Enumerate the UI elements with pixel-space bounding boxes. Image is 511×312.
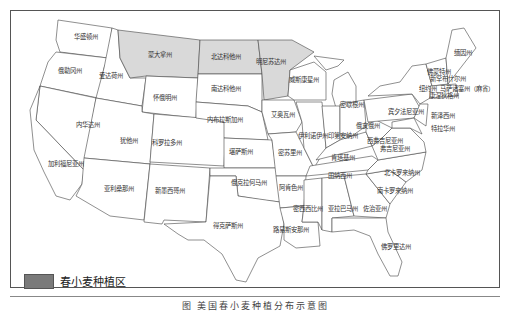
- caption-divider: [10, 296, 500, 297]
- label-colorado: 科罗拉多州: [152, 138, 182, 147]
- label-south-carolina: 南卡罗来纳州: [377, 186, 413, 195]
- map-legend: 春小麦种植区: [24, 273, 126, 289]
- label-tennessee: 田纳西州: [328, 171, 352, 180]
- label-new-mexico: 新墨西哥州: [155, 186, 185, 195]
- label-north-dakota: 北达科他州: [211, 52, 241, 61]
- label-west-virginia: 西弗吉尼亚州: [367, 136, 403, 145]
- figure-caption: 图 美国春小麦种植分布示意图: [0, 299, 511, 312]
- label-louisiana: 路易斯安那州: [273, 225, 309, 234]
- label-california: 加利福尼亚州: [48, 159, 84, 168]
- label-oklahoma: 俄克拉何马州: [231, 178, 267, 187]
- label-virginia: 弗吉尼亚州: [380, 144, 410, 153]
- label-maine: 缅因州: [454, 48, 472, 57]
- label-idaho: 爱达荷州: [99, 71, 123, 80]
- label-iowa: 艾奥瓦州: [271, 110, 295, 119]
- label-north-carolina: 北卡罗来纳州: [384, 168, 420, 177]
- label-south-dakota: 南达科他州: [211, 84, 241, 93]
- label-kansas: 堪萨斯州: [229, 147, 253, 156]
- label-georgia: 佐治亚州: [363, 204, 387, 213]
- label-alabama: 亚拉巴马州: [328, 204, 358, 213]
- label-michigan: 密歇根州: [340, 100, 364, 109]
- label-arkansas: 阿肯色州: [279, 183, 303, 192]
- label-florida: 佛罗里达州: [381, 242, 411, 251]
- label-texas: 得克萨斯州: [213, 221, 243, 230]
- label-new-jersey: 新泽西州: [431, 111, 455, 120]
- state-mississippi: [302, 178, 322, 230]
- label-nebraska: 内布拉斯加州: [207, 115, 243, 124]
- label-utah: 犹他州: [120, 136, 138, 145]
- label-new-hampshire: 新罕布什尔州: [430, 74, 466, 83]
- label-kentucky: 肯塔基州: [331, 153, 355, 162]
- label-wyoming: 怀俄明州: [153, 93, 177, 102]
- legend-label: 春小麦种植区: [60, 273, 126, 289]
- label-wisconsin: 威斯康星州: [289, 75, 319, 84]
- label-ohio: 俄亥俄州: [356, 121, 380, 130]
- label-delaware: 特拉华州: [431, 124, 455, 133]
- label-pennsylvania: 宾夕法尼亚州: [388, 107, 424, 116]
- label-arizona: 亚利桑那州: [104, 184, 134, 193]
- state-new-mexico: [144, 164, 210, 224]
- label-mississippi: 密西西比州: [293, 204, 323, 213]
- state-arkansas: [276, 176, 306, 208]
- label-illinois-indiana: 伊利诺伊州印第安纳州: [298, 131, 358, 140]
- label-montana: 蒙大拿州: [148, 50, 172, 59]
- label-missouri: 密苏里州: [278, 148, 302, 157]
- label-washington: 华盛顿州: [74, 32, 98, 41]
- label-connecticut: 康涅狄格州: [429, 91, 459, 100]
- label-nevada: 内华达州: [76, 120, 100, 129]
- label-oregon: 俄勒冈州: [58, 66, 82, 75]
- label-minnesota: 明尼苏达州: [256, 57, 286, 66]
- legend-swatch-spring-wheat: [24, 274, 54, 289]
